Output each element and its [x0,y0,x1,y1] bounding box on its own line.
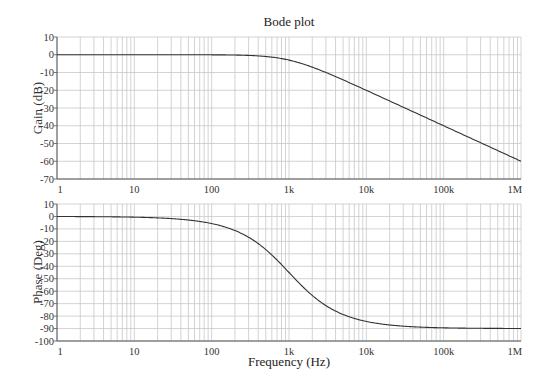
phase-axis-label: Phase (Deg) [30,212,46,332]
gain-x-tick-label: 1k [284,184,295,195]
gain-x-tick-label: 100 [204,184,220,195]
gain-x-tick-label: 10 [129,184,140,195]
phase-plot: 100-10-20-30-40-50-60-70-80-90-100110100… [35,199,523,358]
gain-axis-label: Gain (dB) [30,48,46,168]
gain-y-tick-label: -70 [40,174,54,185]
gain-x-tick-label: 100k [433,184,455,195]
phase-y-tick-label: 0 [49,211,54,222]
phase-y-tick-label: -100 [35,336,54,347]
gain-x-tick-label: 10k [358,184,375,195]
gain-y-tick-label: 10 [44,32,55,43]
gain-y-tick-label: 0 [49,49,54,60]
gain-plot: 100-10-20-30-40-50-60-701101001k10k100k1… [40,32,523,196]
chart-title: Bode plot [0,14,548,30]
frequency-axis-label: Frequency (Hz) [0,354,548,370]
phase-y-tick-label: 10 [44,199,55,210]
gain-x-tick-label: 1 [57,184,62,195]
bode-chart: 100-10-20-30-40-50-60-701101001k10k100k1… [0,0,548,391]
gain-x-tick-label: 1M [507,184,522,195]
